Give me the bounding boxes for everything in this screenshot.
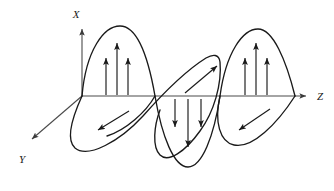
field-vector-oblique-3 (239, 109, 270, 130)
field-vectors-lobe-3-oblique (239, 109, 270, 130)
wave-back-edge (71, 55, 221, 157)
field-vectors-lobe-2-down (175, 99, 201, 147)
polarized-wave-diagram: X Y Z (0, 0, 334, 191)
z-axis-label: Z (317, 90, 324, 102)
wave-diagram-canvas: X Y Z (0, 0, 334, 191)
wave-lobe3-near-arc (218, 96, 295, 145)
y-axis-line (32, 96, 82, 139)
y-axis-label: Y (19, 153, 27, 165)
field-vectors-lobe-3-up (245, 43, 267, 95)
wave-lobe1-near-arc (107, 96, 155, 136)
x-axis-label: X (72, 8, 81, 20)
field-vectors-lobe-1-up (106, 43, 128, 95)
